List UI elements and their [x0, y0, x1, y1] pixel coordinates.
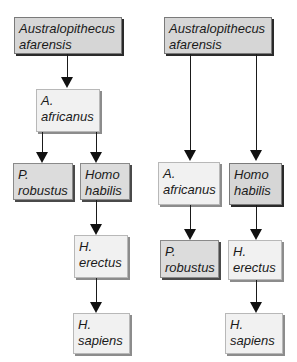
right-node-h-sapiens: H. sapiens: [225, 313, 283, 354]
right-edge-afarensis-africanus: [190, 54, 191, 152]
left-node-homo-habilis: Homo habilis: [80, 163, 130, 200]
node-label-line2: afarensis: [19, 37, 117, 53]
node-label-line1: P.: [165, 244, 214, 260]
right-node-p-robustus: P. robustus: [160, 240, 219, 278]
node-label-line2: afarensis: [169, 37, 267, 53]
left-node-h-erectus: H. erectus: [74, 235, 128, 278]
left-node-australopithecus-afarensis: Australopithecus afarensis: [14, 17, 122, 54]
node-label-line1: Homo: [234, 167, 277, 183]
arrow-down-icon: [36, 152, 48, 163]
right-edge-afarensis-habilis: [256, 54, 257, 152]
left-edge-habilis-erectus: [96, 200, 97, 225]
node-label-line2: erectus: [233, 260, 277, 276]
node-label-line1: A.: [163, 166, 215, 182]
arrow-down-icon: [250, 150, 262, 161]
node-label-line2: erectus: [79, 255, 123, 271]
arrow-down-icon: [61, 77, 73, 88]
arrow-down-icon: [90, 224, 102, 235]
node-label-line1: Australopithecus: [169, 21, 267, 37]
left-node-p-robustus: P. robustus: [13, 163, 73, 200]
phylogeny-diagram: Australopithecus afarensis A. africanus …: [0, 0, 297, 362]
node-label-line2: habilis: [234, 183, 277, 199]
node-label-line2: robustus: [18, 183, 68, 199]
node-label-line1: H.: [230, 317, 278, 333]
node-label-line1: H.: [233, 244, 277, 260]
node-label-line2: habilis: [85, 183, 125, 199]
left-edge-afarensis-africanus: [67, 54, 68, 79]
right-edge-erectus-sapiens: [256, 280, 257, 303]
left-edge-africanus-robustus: [42, 132, 43, 154]
node-label-line1: P.: [18, 167, 68, 183]
right-node-homo-habilis: Homo habilis: [229, 163, 282, 205]
node-label-line2: sapiens: [78, 333, 125, 349]
arrow-down-icon: [250, 302, 262, 313]
left-node-a-africanus: A. africanus: [36, 89, 100, 132]
left-node-h-sapiens: H. sapiens: [73, 313, 130, 354]
right-node-h-erectus: H. erectus: [228, 240, 282, 280]
right-edge-africanus-robustus: [190, 205, 191, 230]
node-label-line2: robustus: [165, 260, 214, 276]
arrow-down-icon: [250, 229, 262, 240]
right-node-australopithecus-afarensis: Australopithecus afarensis: [164, 17, 272, 54]
left-edge-africanus-habilis: [96, 132, 97, 154]
node-label-line2: sapiens: [230, 333, 278, 349]
left-edge-erectus-sapiens: [96, 278, 97, 303]
node-label-line1: Homo: [85, 167, 125, 183]
node-label-line1: A.: [41, 93, 95, 109]
node-label-line1: H.: [79, 239, 123, 255]
node-label-line1: H.: [78, 317, 125, 333]
node-label-line2: africanus: [163, 182, 215, 198]
node-label-line1: Australopithecus: [19, 21, 117, 37]
arrow-down-icon: [90, 302, 102, 313]
right-edge-habilis-erectus: [256, 205, 257, 230]
arrow-down-icon: [184, 150, 196, 161]
arrow-down-icon: [184, 229, 196, 240]
node-label-line2: africanus: [41, 109, 95, 125]
right-node-a-africanus: A. africanus: [158, 162, 220, 205]
arrow-down-icon: [90, 152, 102, 163]
